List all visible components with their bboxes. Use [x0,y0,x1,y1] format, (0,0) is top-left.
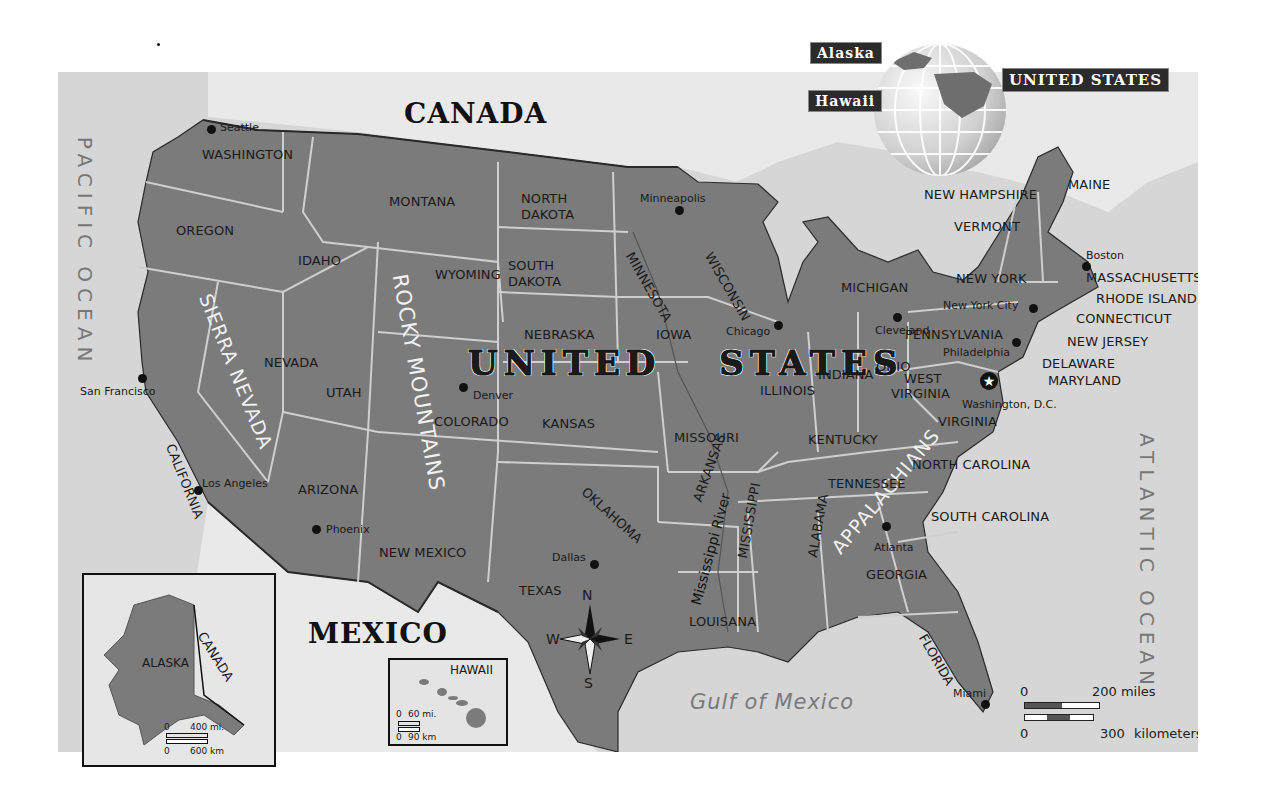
state-label: IOWA [656,328,692,341]
compass-rose: N S W E [540,594,640,684]
alaska-scale-mi-end: 400 mi. [190,723,224,732]
ocean-label-atlantic: ATLANTIC OCEAN [1137,433,1157,691]
city-dot-icon [981,700,990,709]
state-label: LOUISANA [689,615,756,628]
city-dot-icon [774,321,783,330]
city-label: Phoenix [326,524,370,535]
globe-tag-hawaii: Hawaii [808,90,882,112]
stray-dot [157,43,160,46]
city-dot-icon [459,383,468,392]
city-dot-icon [675,206,684,215]
city-label: New York City [943,300,1018,311]
country-label-mexico: MEXICO [308,620,448,648]
compass-w: W [546,632,560,646]
scale-miles-bar [1024,702,1100,709]
compass-e: E [624,632,633,646]
inset-alaska-label: ALASKA [142,657,189,669]
inset-alaska: ALASKA CANADA 0 400 mi. 0 600 km [82,573,276,767]
state-label: ILLINOIS [760,384,815,397]
compass-n: N [582,588,592,602]
city-dot-icon [207,125,216,134]
water-label-gulf-of-mexico: Gulf of Mexico [690,692,854,713]
alaska-scale-mi-start: 0 [164,723,170,732]
state-label: NORTH CAROLINA [912,458,1030,471]
state-label: VIRGINIA [938,415,997,428]
city-label: Atlanta [874,542,913,553]
state-label: SOUTH CAROLINA [931,510,1049,523]
state-label: MICHIGAN [841,281,908,294]
city-dot-icon [893,313,902,322]
scale-km-end: 300 [1100,726,1125,741]
hawaii-scale-mi-start: 0 [396,710,402,719]
compass-s: S [584,676,593,690]
city-label: Philadelphia [943,347,1010,358]
state-label: CONNECTICUT [1076,312,1171,325]
state-label: KENTUCKY [808,433,878,446]
city-dot-icon [138,374,147,383]
inset-hawaii: HAWAII 0 60 mi. 0 90 km [388,658,508,746]
state-label: UTAH [326,386,362,399]
city-dot-icon [1082,262,1091,271]
state-label: COLORADO [434,415,509,428]
hawaii-scale-km-end: 90 km [408,733,436,742]
state-label: INDIANA [818,368,874,381]
scale-km-start: 0 [1020,726,1028,741]
state-label: GEORGIA [866,568,927,581]
state-label: KANSAS [542,417,595,430]
scale-km-unit: kilometers [1134,726,1198,741]
country-label-canada: CANADA [404,100,547,128]
state-label: OREGON [176,224,234,237]
state-label: MARYLAND [1048,374,1121,387]
state-label: NEW HAMPSHIRE [924,188,1037,201]
scale-miles-end: 200 miles [1092,684,1156,699]
state-label: DELAWARE [1042,357,1115,370]
state-label: MISSOURI [674,431,739,444]
hawaii-scale-bars [398,721,420,726]
capital-star-icon: ★ [980,372,998,390]
state-label: MAINE [1068,178,1110,191]
ocean-label-pacific: PACIFIC OCEAN [75,137,95,368]
state-label: DAKOTA [521,208,574,221]
city-label: Boston [1086,250,1124,261]
state-label: MONTANA [389,195,455,208]
state-label: ARIZONA [298,483,358,496]
state-label: WYOMING [435,268,501,281]
hawaii-scale-km-start: 0 [396,733,402,742]
state-label: IDAHO [298,254,341,267]
city-label: Miami [953,688,986,699]
scale-km-bar [1024,714,1094,721]
alaska-scale-km-end: 600 km [190,747,224,756]
globe-tag-united-states: UNITED STATES [1002,68,1169,92]
city-dot-icon [882,522,891,531]
locator-globe [874,44,1006,176]
city-label: Washington, D.C. [962,399,1057,410]
city-dot-icon [1029,304,1038,313]
hawaii-scale-mi-end: 60 mi. [408,710,436,719]
city-label: Seattle [220,122,259,133]
state-label: NEW MEXICO [379,546,466,559]
city-label: Minneapolis [640,193,706,204]
state-label: VIRGINIA [891,387,950,400]
state-label: WEST [904,372,942,385]
state-label: DAKOTA [508,275,561,288]
state-label: NEBRASKA [524,328,595,341]
alaska-scale-bars [166,733,208,738]
state-label: RHODE ISLAND [1096,292,1197,305]
state-label: WASHINGTON [202,148,293,161]
state-label: NEW YORK [956,272,1027,285]
city-label: Los Angeles [202,478,268,489]
city-label: Cleveland [875,325,930,336]
city-label: San Francisco [80,386,156,397]
scale-bar: 0 200 miles 0 300 kilometers [1016,676,1196,746]
alaska-scale-km-start: 0 [164,747,170,756]
globe-tag-alaska: Alaska [810,42,882,64]
state-label: MASSACHUSETTS [1086,271,1198,284]
city-dot-icon [590,560,599,569]
state-label: TENNESSEE [828,477,906,490]
globe-grid [874,44,1006,176]
state-label: SOUTH [508,259,554,272]
state-label: NEVADA [264,356,318,369]
state-label: NEW JERSEY [1067,335,1148,348]
city-dot-icon [312,525,321,534]
scale-miles-start: 0 [1020,684,1028,699]
